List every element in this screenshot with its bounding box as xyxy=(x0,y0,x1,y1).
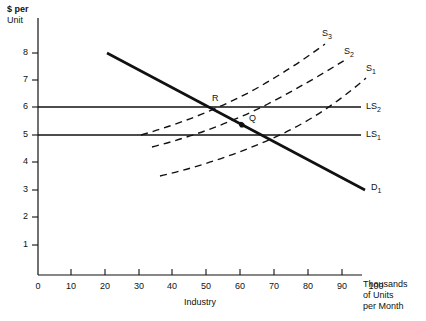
curve-label-LS1-sub: 1 xyxy=(377,134,381,141)
x-tick-50: 50 xyxy=(194,281,218,291)
curve-S2 xyxy=(152,60,345,147)
x-axis-units-caption: Thousands of Units per Month xyxy=(363,279,408,312)
curve-label-S2: S2 xyxy=(344,46,354,58)
y-axis-ticks xyxy=(32,53,38,245)
curve-label-S3: S3 xyxy=(322,28,332,40)
curve-label-LS2-text: LS xyxy=(366,101,377,111)
y-tick-3: 3 xyxy=(10,184,28,194)
curve-label-LS2: LS2 xyxy=(366,101,381,113)
y-axis-title-line1: $ per xyxy=(7,4,29,14)
curve-label-S1: S1 xyxy=(366,63,376,75)
curve-label-LS1-text: LS xyxy=(366,129,377,139)
y-axis-title-line2: Unit xyxy=(7,15,23,25)
x-tick-40: 40 xyxy=(160,281,184,291)
x-tick-10: 10 xyxy=(59,281,83,291)
curve-S1 xyxy=(160,78,366,176)
x-tick-90: 90 xyxy=(330,281,354,291)
y-axis-title: $ per Unit xyxy=(7,4,29,26)
x-tick-70: 70 xyxy=(262,281,286,291)
curve-D1 xyxy=(107,53,365,190)
curve-label-LS1: LS1 xyxy=(366,129,381,141)
x-axis-title: Industry xyxy=(184,297,216,308)
x-tick-20: 20 xyxy=(93,281,117,291)
y-tick-8: 8 xyxy=(10,47,28,57)
x-tick-60: 60 xyxy=(228,281,252,291)
chart-canvas xyxy=(0,0,426,321)
y-tick-2: 2 xyxy=(10,211,28,221)
x-tick-30: 30 xyxy=(127,281,151,291)
curve-label-LS2-sub: 2 xyxy=(377,106,381,113)
curve-label-D1: D1 xyxy=(371,182,381,194)
y-tick-7: 7 xyxy=(10,74,28,84)
curve-label-S3-sub: 3 xyxy=(328,33,332,40)
x-tick-0: 0 xyxy=(26,281,50,291)
curve-label-D1-sub: 1 xyxy=(378,187,382,194)
x-axis-ticks xyxy=(71,269,342,275)
y-tick-6: 6 xyxy=(10,101,28,111)
point-Q-marker-inner xyxy=(239,122,243,126)
x-tick-80: 80 xyxy=(296,281,320,291)
chart-root: $ per Unit 8 7 6 5 4 3 2 1 0 10 20 30 40… xyxy=(0,0,426,321)
point-label-R: R xyxy=(212,93,219,103)
y-tick-4: 4 xyxy=(10,156,28,166)
y-tick-1: 1 xyxy=(10,239,28,249)
curve-label-S1-sub: 1 xyxy=(372,68,376,75)
point-label-Q: Q xyxy=(249,113,256,123)
y-tick-5: 5 xyxy=(10,129,28,139)
curve-label-S2-sub: 2 xyxy=(350,51,354,58)
